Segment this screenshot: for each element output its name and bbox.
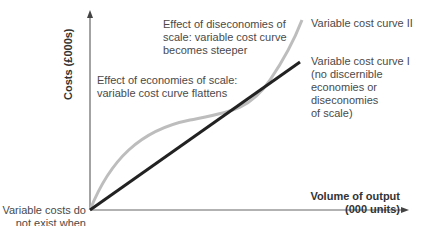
origin-annotation: Variable costs do not exist when output … <box>2 204 86 226</box>
label-line: (no discernible <box>311 68 410 81</box>
x-label-line: Volume of output <box>310 190 400 203</box>
label-line: Variable cost curve I <box>311 55 410 68</box>
annotation-line: Effect of economies of scale: <box>97 74 237 87</box>
y-axis-arrow-icon <box>87 10 93 18</box>
economies-annotation: Effect of economies of scale: variable c… <box>97 74 237 100</box>
annotation-line: Variable costs do <box>2 204 86 217</box>
x-axis-arrow-icon <box>401 207 409 213</box>
annotation-line: scale: variable cost curve <box>163 31 287 44</box>
annotation-line: not exist when <box>2 217 86 226</box>
x-label-line: (000 units) <box>310 203 400 216</box>
curve-2-label: Variable cost curve II <box>311 17 413 30</box>
diseconomies-annotation: Effect of diseconomies of scale: variabl… <box>163 18 287 57</box>
x-axis-label: Volume of output (000 units) <box>310 190 400 216</box>
label-line: of scale) <box>311 107 410 120</box>
label-line: diseconomies <box>311 94 410 107</box>
y-axis-label: Costs (£000s) <box>62 28 74 100</box>
label-line: economies or <box>311 81 410 94</box>
annotation-line: Effect of diseconomies of <box>163 18 287 31</box>
curve-1-label: Variable cost curve I (no discernible ec… <box>311 55 410 120</box>
annotation-line: variable cost curve flattens <box>97 87 237 100</box>
annotation-line: becomes steeper <box>163 44 287 57</box>
